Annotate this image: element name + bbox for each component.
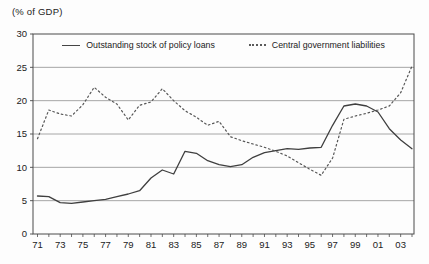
- legend-label-central-government: Central government liabilities: [272, 40, 385, 50]
- legend-label-policy-loans: Outstanding stock of policy loans: [86, 40, 215, 50]
- dotted-line-sample-icon: [249, 44, 266, 46]
- x-tick-label: 71: [32, 239, 43, 250]
- x-tick-label: 99: [350, 239, 361, 250]
- x-tick-label: 95: [305, 239, 316, 250]
- x-tick-label: 97: [327, 239, 338, 250]
- x-tick-label: 89: [236, 239, 247, 250]
- y-tick-label: 15: [16, 128, 27, 139]
- y-tick-label: 30: [16, 28, 27, 39]
- x-tick-label: 03: [395, 239, 406, 250]
- x-tick-label: 77: [100, 239, 111, 250]
- chart-canvas: (% of GDP) 05101520253071737577798183858…: [0, 0, 429, 264]
- y-tick-label: 25: [16, 62, 27, 73]
- y-tick-label: 5: [22, 195, 27, 206]
- legend-item-central-government: Central government liabilities: [249, 40, 385, 50]
- x-tick-label: 83: [168, 239, 179, 250]
- y-tick-label: 10: [16, 162, 27, 173]
- solid-line-sample-icon: [62, 45, 80, 46]
- legend-item-policy-loans: Outstanding stock of policy loans: [62, 40, 215, 50]
- x-tick-label: 79: [123, 239, 134, 250]
- x-tick-label: 85: [191, 239, 202, 250]
- central-government-liabilities-line: [38, 66, 413, 175]
- x-tick-label: 01: [373, 239, 384, 250]
- y-tick-label: 0: [22, 228, 27, 239]
- x-tick-label: 73: [55, 239, 66, 250]
- y-tick-label: 20: [16, 95, 27, 106]
- x-tick-label: 93: [282, 239, 293, 250]
- legend: Outstanding stock of policy loans Centra…: [33, 40, 414, 50]
- x-tick-label: 91: [259, 239, 270, 250]
- x-tick-label: 81: [146, 239, 157, 250]
- x-tick-label: 87: [214, 239, 225, 250]
- outstanding-stock-of-policy-loans-line: [38, 104, 413, 203]
- x-tick-label: 75: [78, 239, 89, 250]
